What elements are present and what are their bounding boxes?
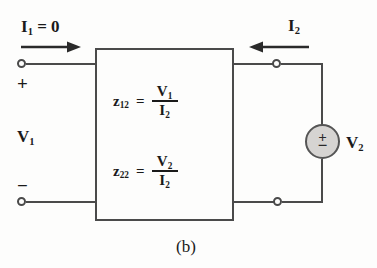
equation-z22-lhs: z22: [113, 163, 129, 180]
voltage-subscript-v1: 1: [29, 136, 34, 147]
equation-z22-fraction: V2 I2: [152, 153, 178, 189]
wire-left-top: [26, 63, 96, 65]
voltage-label-v2: V2: [346, 134, 364, 151]
equation-z22-subscript: 22: [120, 170, 129, 180]
equation-z12-symbol: z: [113, 93, 120, 109]
wire-right-top-inner: [233, 63, 277, 65]
voltage-label-v1: V1: [17, 128, 35, 145]
equation-z12: z12 = V1 I2: [113, 83, 178, 119]
two-port-network-box: [95, 48, 234, 221]
figure-caption: (b): [176, 238, 196, 255]
terminal-right-top: [272, 59, 281, 68]
wire-source-top: [321, 63, 323, 126]
terminal-left-bottom: [17, 197, 26, 206]
current-symbol-i1: I: [21, 17, 28, 36]
voltage-source-v2: + −: [305, 124, 340, 159]
equation-z12-fraction: V1 I2: [152, 83, 178, 119]
source-minus-sign: −: [307, 137, 338, 154]
equation-z22-den-subscript: 2: [165, 180, 170, 190]
current-arrow-i2-left: [241, 41, 309, 53]
voltage-symbol-v2: V: [346, 133, 358, 152]
current-label-i1: I1 = 0: [21, 18, 60, 35]
terminal-right-bottom: [273, 197, 282, 206]
wire-source-bottom: [321, 159, 323, 202]
wire-left-bottom: [26, 201, 96, 203]
equation-z22-num-symbol: V: [157, 153, 168, 169]
equation-z22-equals: =: [136, 163, 145, 180]
figure-canvas: I1 = 0 I2 + V1 − + −: [0, 0, 377, 268]
current-equals-zero: = 0: [33, 17, 60, 36]
current-symbol-i2: I: [288, 16, 295, 35]
equation-z22-num-subscript: 2: [168, 161, 173, 171]
voltage-subscript-v2: 2: [358, 142, 363, 153]
voltage-symbol-v1: V: [17, 127, 29, 146]
current-label-i2: I2: [288, 17, 300, 34]
wire-right-bottom-outer: [282, 201, 323, 203]
wire-right-top-outer: [281, 63, 323, 65]
current-arrow-i1-right: [21, 41, 81, 53]
equation-z12-subscript: 12: [120, 100, 129, 110]
equation-z22: z22 = V2 I2: [113, 153, 178, 189]
equation-z22-denominator: I2: [156, 172, 173, 189]
terminal-left-top: [17, 59, 26, 68]
current-subscript-i2: 2: [295, 25, 300, 36]
equation-z12-num-symbol: V: [157, 83, 168, 99]
polarity-plus-left: +: [17, 74, 28, 93]
equation-z12-num-subscript: 1: [168, 91, 173, 101]
wire-right-bottom-inner: [233, 201, 278, 203]
equation-z12-lhs: z12: [113, 93, 129, 110]
current-subscript-i1: 1: [28, 26, 33, 37]
polarity-minus-left: −: [17, 176, 28, 195]
equation-z12-denominator: I2: [156, 102, 173, 119]
equation-z12-numerator: V1: [154, 83, 176, 100]
equation-z22-symbol: z: [113, 163, 120, 179]
equation-z22-numerator: V2: [154, 153, 176, 170]
equation-z12-equals: =: [136, 93, 145, 110]
equation-z12-den-subscript: 2: [165, 110, 170, 120]
